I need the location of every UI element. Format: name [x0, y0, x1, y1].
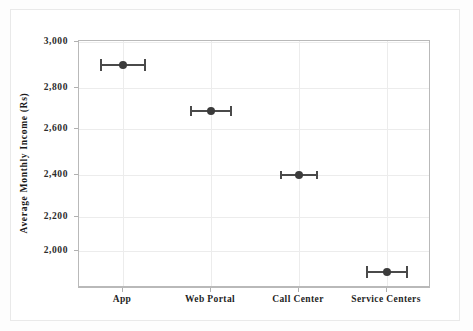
marker-service-centers [383, 268, 391, 276]
figure-canvas: Average Monthly Income (Rs) [0, 0, 473, 331]
y-tick-label-2800: 2,800 [16, 82, 68, 92]
marker-call-center [295, 171, 303, 179]
x-tick-label-app: App [113, 294, 132, 304]
x-tick-label-call-center: Call Center [272, 294, 324, 304]
y-tick-mark-2800 [74, 87, 78, 88]
x-tick-mark-call-center [298, 288, 299, 292]
error-bar-cap-high-web-portal [230, 106, 232, 116]
marker-web-portal [207, 107, 215, 115]
gridline-x-call-center [299, 41, 300, 286]
gridline-x-service-centers [387, 41, 388, 286]
y-tick-label-2400: 2,400 [16, 169, 68, 179]
gridline-y-2600 [79, 129, 429, 130]
y-tick-label-2200: 2,200 [16, 211, 68, 221]
error-bar-cap-low-service-centers [366, 266, 368, 278]
error-bar-cap-low-call-center [280, 171, 282, 179]
x-tick-mark-web-portal [210, 288, 211, 292]
x-tick-mark-app [122, 288, 123, 292]
error-bar-cap-high-app [144, 59, 146, 71]
gridline-y-2000 [79, 251, 429, 252]
gridline-y-2200 [79, 217, 429, 218]
gridline-y-3000 [79, 42, 429, 43]
error-bar-cap-low-app [100, 59, 102, 71]
y-tick-label-2000: 2,000 [16, 245, 68, 255]
y-tick-mark-2600 [74, 128, 78, 129]
x-tick-label-service-centers: Service Centers [351, 294, 421, 304]
x-tick-label-web-portal: Web Portal [185, 294, 235, 304]
gridline-x-web-portal [211, 41, 212, 286]
error-bar-cap-high-service-centers [406, 266, 408, 278]
y-tick-mark-2200 [74, 216, 78, 217]
gridline-x-app [123, 41, 124, 286]
y-tick-label-2600: 2,600 [16, 123, 68, 133]
error-bar-cap-high-call-center [316, 171, 318, 179]
y-tick-mark-3000 [74, 41, 78, 42]
error-bar-cap-low-web-portal [190, 106, 192, 116]
chart-screenshot: Average Monthly Income (Rs) [0, 0, 473, 331]
gridline-y-2400 [79, 175, 429, 176]
y-tick-label-3000: 3,000 [16, 36, 68, 46]
x-axis-line [78, 287, 430, 288]
x-tick-mark-service-centers [386, 288, 387, 292]
y-tick-mark-2400 [74, 174, 78, 175]
marker-app [119, 61, 127, 69]
gridline-y-2800 [79, 88, 429, 89]
plot-area [78, 40, 430, 287]
y-tick-mark-2000 [74, 250, 78, 251]
